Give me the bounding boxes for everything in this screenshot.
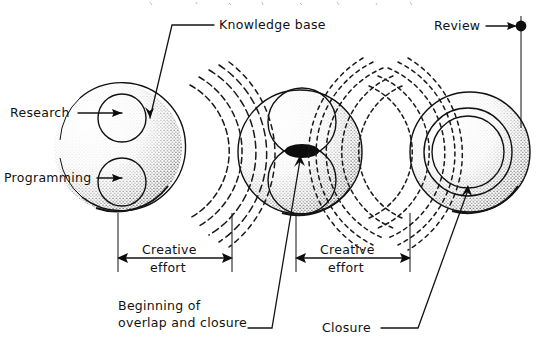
knowledge-base-label: Knowledge base xyxy=(219,17,326,32)
review-milestone-dot xyxy=(516,16,527,128)
closure-label: Closure xyxy=(322,320,371,335)
creative-effort-1-label-line1: Creative xyxy=(142,242,197,257)
diagram-canvas: Research Programming Knowledge base Revi… xyxy=(0,0,537,345)
research-label: Research xyxy=(10,105,70,120)
creative-effort-2: Creative effort xyxy=(295,213,411,275)
beginning-overlap-label-line1: Beginning of xyxy=(118,298,201,313)
creative-effort-1-label-line2: effort xyxy=(150,260,186,275)
wave-arc xyxy=(199,77,242,226)
review-callout: Review xyxy=(434,18,517,33)
wave-arc xyxy=(190,85,229,218)
review-arrow-head xyxy=(507,22,517,30)
creative-effort-2-label-line1: Creative xyxy=(320,242,375,257)
stage-3-closure xyxy=(410,92,530,213)
stage-1-separate-spheres xyxy=(54,83,186,212)
creative-effort-2-label-line2: effort xyxy=(328,260,364,275)
hand-drawn-diagram: Research Programming Knowledge base Revi… xyxy=(0,0,537,345)
creative-effort-1: Creative effort xyxy=(117,213,233,275)
cropped-top-text xyxy=(150,2,412,5)
milestone-dot xyxy=(516,21,527,32)
review-label: Review xyxy=(434,18,480,33)
beginning-overlap-label-line2: overlap and closure xyxy=(118,315,247,330)
programming-label: Programming xyxy=(4,170,92,185)
